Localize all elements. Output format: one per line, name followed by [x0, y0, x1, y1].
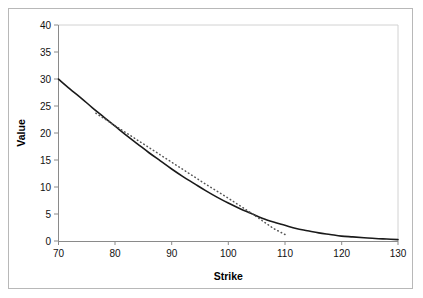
x-tick-labels: 70 80 90 100 110 120 130 — [53, 248, 407, 259]
x-tick-label: 130 — [390, 248, 407, 259]
x-tick-label: 90 — [166, 248, 178, 259]
y-tick-label: 35 — [40, 47, 52, 58]
x-tick-label: 70 — [53, 248, 65, 259]
x-tick-label: 110 — [277, 248, 293, 259]
y-tick-labels: 40 35 30 25 20 15 10 5 0 — [40, 20, 52, 247]
y-axis-title: Value — [15, 119, 27, 147]
y-tick-label: 5 — [45, 209, 51, 220]
solid-curve — [59, 79, 399, 239]
y-tick-label: 10 — [40, 182, 52, 193]
x-tick-label: 120 — [333, 248, 350, 259]
y-tick-label: 30 — [40, 74, 52, 85]
y-tick-label: 40 — [40, 20, 52, 31]
y-tick-label: 0 — [45, 236, 51, 247]
data-series-layer — [59, 79, 399, 239]
plot-area-frame — [58, 25, 398, 241]
x-tick-label: 80 — [109, 248, 121, 259]
y-tick-label: 25 — [40, 101, 52, 112]
y-tick-label: 20 — [40, 128, 52, 139]
x-axis-title: Strike — [214, 270, 243, 282]
y-tick-label: 15 — [40, 155, 52, 166]
y-axis-ticks — [54, 25, 58, 241]
x-tick-label: 100 — [220, 248, 237, 259]
chart-figure: 40 35 30 25 20 15 10 5 0 70 80 90 100 11… — [0, 0, 423, 298]
line-chart-plot: 40 35 30 25 20 15 10 5 0 70 80 90 100 11… — [0, 0, 423, 298]
